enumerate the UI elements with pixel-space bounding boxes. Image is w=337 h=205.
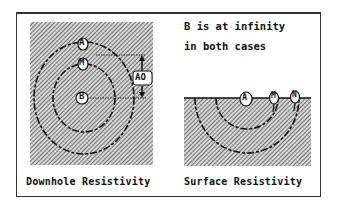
surface-electrode-m-label: M bbox=[271, 91, 276, 100]
surface-electrode-a-label: A bbox=[242, 92, 247, 102]
surface-caption: Surface Resistivity bbox=[184, 176, 302, 187]
dimension-ao-label: AO bbox=[135, 72, 146, 82]
surface-panel bbox=[184, 91, 311, 166]
electrode-b-label: B bbox=[79, 91, 85, 101]
note-line-1: B is at infinity bbox=[184, 18, 285, 34]
electrode-m-label: M bbox=[79, 57, 85, 67]
electrode-a-label: A bbox=[79, 37, 85, 47]
downhole-panel bbox=[30, 22, 153, 165]
ground-hatch bbox=[184, 98, 311, 166]
resistivity-diagram bbox=[0, 0, 337, 205]
surface-electrode-n-label: N bbox=[292, 90, 297, 99]
downhole-caption: Downhole Resistivity bbox=[26, 176, 150, 187]
note-line-2: in both cases bbox=[184, 38, 266, 54]
